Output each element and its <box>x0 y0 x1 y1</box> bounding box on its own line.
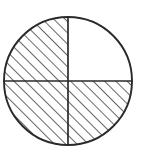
fraction-circle-diagram <box>0 0 147 156</box>
fraction-circle-figure: Circle divided into four quarters with t… <box>0 0 147 156</box>
